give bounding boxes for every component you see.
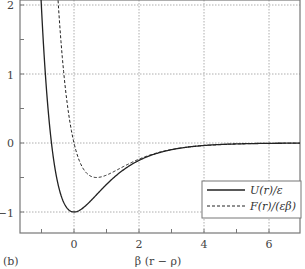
curves xyxy=(19,0,302,212)
y-tick-label-minus1: −1 xyxy=(0,207,14,220)
x-tick-label-0: 0 xyxy=(71,238,78,251)
legend-label-potential: U(r)/ε xyxy=(250,184,283,197)
x-tick-label-4: 4 xyxy=(201,238,208,251)
potential-curve xyxy=(19,0,302,212)
y-tick-label-2: 2 xyxy=(7,0,14,12)
x-tick-label-2: 2 xyxy=(136,238,143,251)
x-tick-label-6: 6 xyxy=(266,238,273,251)
y-tick-labels: 2 1 0 −1 xyxy=(0,0,14,220)
legend: U(r)/ε F(r)/(εβ) xyxy=(202,181,301,218)
legend-label-force: F(r)/(εβ) xyxy=(249,200,296,213)
x-axis-title: β (r − ρ) xyxy=(135,255,181,268)
y-tick-label-0: 0 xyxy=(7,137,14,150)
force-curve xyxy=(19,0,302,178)
potential-force-chart: 2 1 0 −1 0 2 4 6 β (r − ρ) (b) U(r)/ε F(… xyxy=(0,0,305,269)
panel-label: (b) xyxy=(3,255,19,268)
x-tick-labels: 0 2 4 6 xyxy=(71,238,273,251)
y-tick-label-1: 1 xyxy=(7,69,14,82)
